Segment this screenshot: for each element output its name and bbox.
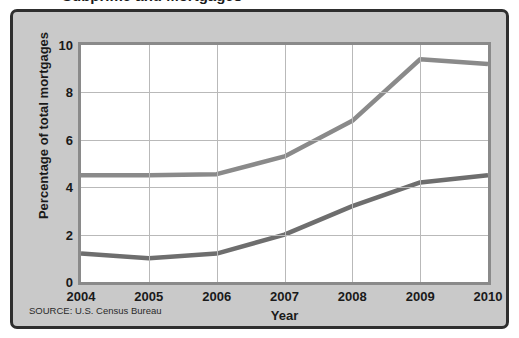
y-axis-ticks: 0246810 (41, 42, 73, 285)
chart-title-cropped: Subprime and Mortgages (0, 0, 519, 9)
x-tick-label: 2009 (390, 289, 450, 304)
gridline-vertical (149, 45, 150, 282)
x-tick-label: 2005 (119, 289, 179, 304)
plot-area (78, 42, 491, 285)
gridline-vertical (285, 45, 286, 282)
x-tick-label: 2006 (187, 289, 247, 304)
figure-container: Subprime and Mortgages Percentage of tot… (0, 0, 519, 338)
x-tick-label: 2010 (458, 289, 518, 304)
y-tick-label: 0 (43, 275, 73, 290)
y-tick-label: 4 (43, 180, 73, 195)
gridline-vertical (420, 45, 421, 282)
chart-title-text: Subprime and Mortgages (62, 0, 242, 4)
chart-panel: Percentage of total mortgages 0246810 20… (10, 9, 509, 329)
source-note: SOURCE: U.S. Census Bureau (29, 305, 162, 316)
y-tick-label: 10 (43, 38, 73, 53)
x-tick-label: 2004 (51, 289, 111, 304)
y-tick-label: 6 (43, 132, 73, 147)
gridline-vertical (217, 45, 218, 282)
x-tick-label: 2007 (255, 289, 315, 304)
x-tick-label: 2008 (322, 289, 382, 304)
y-tick-label: 8 (43, 85, 73, 100)
gridline-vertical (352, 45, 353, 282)
y-tick-label: 2 (43, 227, 73, 242)
